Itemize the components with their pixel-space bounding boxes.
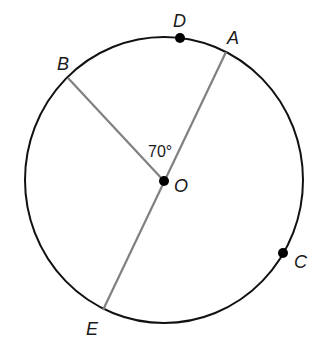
radius-ob — [68, 78, 164, 181]
circle-diagram: DABCEO 70° — [0, 0, 335, 354]
point-b-label: B — [57, 54, 69, 74]
point-dots — [159, 33, 288, 258]
point-labels: DABCEO — [57, 11, 308, 339]
point-a-label: A — [226, 28, 239, 48]
angle-label-boa: 70° — [148, 143, 172, 160]
point-e-label: E — [86, 319, 99, 339]
point-o-label: O — [174, 176, 188, 196]
point-c-label: C — [294, 252, 308, 272]
point-o-dot — [159, 176, 169, 186]
point-c-dot — [278, 248, 288, 258]
point-d-label: D — [173, 11, 186, 31]
point-d-dot — [175, 33, 185, 43]
